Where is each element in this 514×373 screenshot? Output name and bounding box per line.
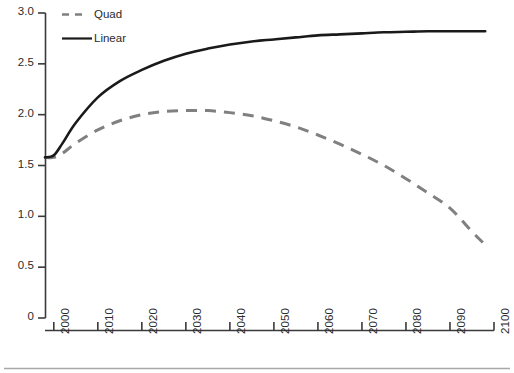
x-tick-label: 2070: [367, 308, 379, 334]
x-tick-label: 2030: [191, 308, 203, 334]
x-tick-label: 2040: [235, 308, 247, 334]
y-tick-label: 3.0: [0, 5, 34, 17]
y-axis: [38, 13, 46, 318]
legend-label-quad: Quad: [94, 8, 122, 20]
chart-container: Quad Linear 00.51.01.52.02.53.0 20002010…: [0, 0, 514, 373]
x-tick-label: 2080: [411, 308, 423, 334]
y-tick-label: 1.5: [0, 158, 34, 170]
legend-label-linear: Linear: [94, 32, 126, 44]
x-tick-label: 2090: [455, 308, 467, 334]
y-tick-label: 2.0: [0, 107, 34, 119]
chart-plot-area: [0, 0, 514, 373]
y-tick-label: 0.5: [0, 259, 34, 271]
series-linear: [45, 31, 485, 157]
y-tick-label: 1.0: [0, 208, 34, 220]
x-tick-label: 2060: [323, 308, 335, 334]
x-tick-label: 2100: [499, 308, 511, 334]
y-tick-label: 2.5: [0, 56, 34, 68]
y-tick-label: 0: [0, 310, 34, 322]
x-tick-label: 2010: [103, 308, 115, 334]
x-tick-label: 2000: [59, 308, 71, 334]
x-tick-label: 2050: [279, 308, 291, 334]
series-quad: [45, 110, 485, 244]
legend: [62, 15, 92, 39]
x-tick-label: 2020: [147, 308, 159, 334]
